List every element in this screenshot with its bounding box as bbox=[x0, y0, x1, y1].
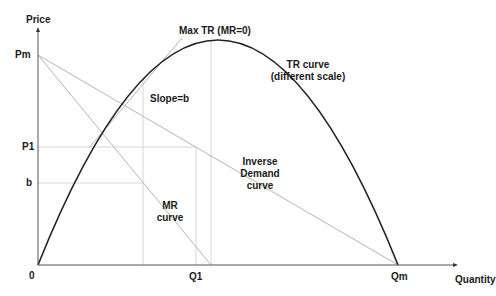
tr-curve-label: TR curve (different scale) bbox=[258, 59, 358, 83]
mr-label-line2: curve bbox=[150, 212, 190, 224]
tr-curve-label-line1: TR curve bbox=[258, 59, 358, 71]
inverse-demand-label-line3: curve bbox=[230, 180, 290, 192]
mr-label: MR curve bbox=[150, 200, 190, 224]
inverse-demand-label-line1: Inverse bbox=[230, 156, 290, 168]
tick-b: b bbox=[26, 177, 32, 189]
tick-pm: Pm bbox=[15, 49, 31, 61]
max-tr-label: Max TR (MR=0) bbox=[179, 25, 251, 37]
mr-label-line1: MR bbox=[150, 200, 190, 212]
tick-p1: P1 bbox=[22, 141, 34, 153]
tr-curve-label-line2: (different scale) bbox=[258, 71, 358, 83]
mr-line bbox=[38, 55, 211, 265]
inverse-demand-line bbox=[38, 55, 398, 265]
inverse-demand-label: Inverse Demand curve bbox=[230, 156, 290, 192]
x-axis-arrow-icon bbox=[453, 263, 458, 267]
guide-lines bbox=[38, 40, 211, 265]
y-axis-label: Price bbox=[26, 14, 50, 26]
x-axis-label: Quantity bbox=[455, 274, 496, 286]
tick-qm: Qm bbox=[391, 271, 408, 283]
inverse-demand-label-line2: Demand bbox=[230, 168, 290, 180]
slope-label: Slope=b bbox=[150, 93, 189, 105]
y-axis-arrow-icon bbox=[36, 27, 40, 32]
origin-label: 0 bbox=[29, 270, 35, 282]
tick-q1: Q1 bbox=[189, 271, 202, 283]
